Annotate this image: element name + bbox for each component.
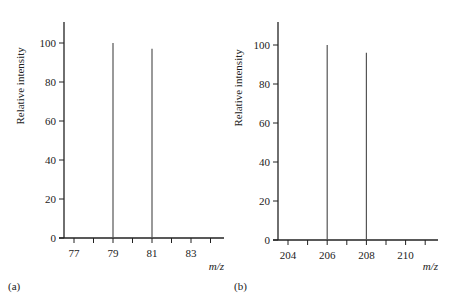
y-tick-label: 60 bbox=[45, 115, 57, 127]
spectrum-panel-b: 020406080100204206208210Relative intensi… bbox=[232, 22, 439, 293]
y-tick-label: 40 bbox=[45, 154, 57, 166]
x-axis-title: m/z bbox=[423, 260, 439, 272]
y-tick-label: 80 bbox=[259, 78, 271, 90]
panel-label: (a) bbox=[8, 280, 21, 293]
mass-spectra-figure: 02040608010077798183Relative intensitym/… bbox=[0, 0, 461, 300]
x-tick-label: 206 bbox=[319, 249, 336, 261]
x-tick-label: 81 bbox=[147, 247, 158, 259]
y-tick-label: 0 bbox=[265, 234, 271, 246]
x-tick-label: 77 bbox=[69, 247, 81, 259]
y-tick-label: 0 bbox=[51, 232, 57, 244]
y-axis-title: Relative intensity bbox=[232, 49, 244, 127]
y-axis-title: Relative intensity bbox=[14, 47, 26, 125]
x-tick-label: 208 bbox=[358, 249, 375, 261]
spectrum-panel-a: 02040608010077798183Relative intensitym/… bbox=[8, 22, 225, 293]
y-tick-label: 100 bbox=[40, 37, 57, 49]
y-tick-label: 100 bbox=[254, 39, 271, 51]
x-tick-label: 204 bbox=[280, 249, 297, 261]
x-axis-title: m/z bbox=[209, 260, 225, 272]
x-tick-label: 210 bbox=[397, 249, 414, 261]
y-tick-label: 20 bbox=[259, 195, 271, 207]
x-tick-label: 83 bbox=[186, 247, 198, 259]
y-tick-label: 20 bbox=[45, 193, 57, 205]
x-tick-label: 79 bbox=[108, 247, 120, 259]
panel-label: (b) bbox=[234, 280, 247, 293]
y-tick-label: 40 bbox=[259, 156, 271, 168]
y-tick-label: 80 bbox=[45, 76, 57, 88]
y-tick-label: 60 bbox=[259, 117, 271, 129]
